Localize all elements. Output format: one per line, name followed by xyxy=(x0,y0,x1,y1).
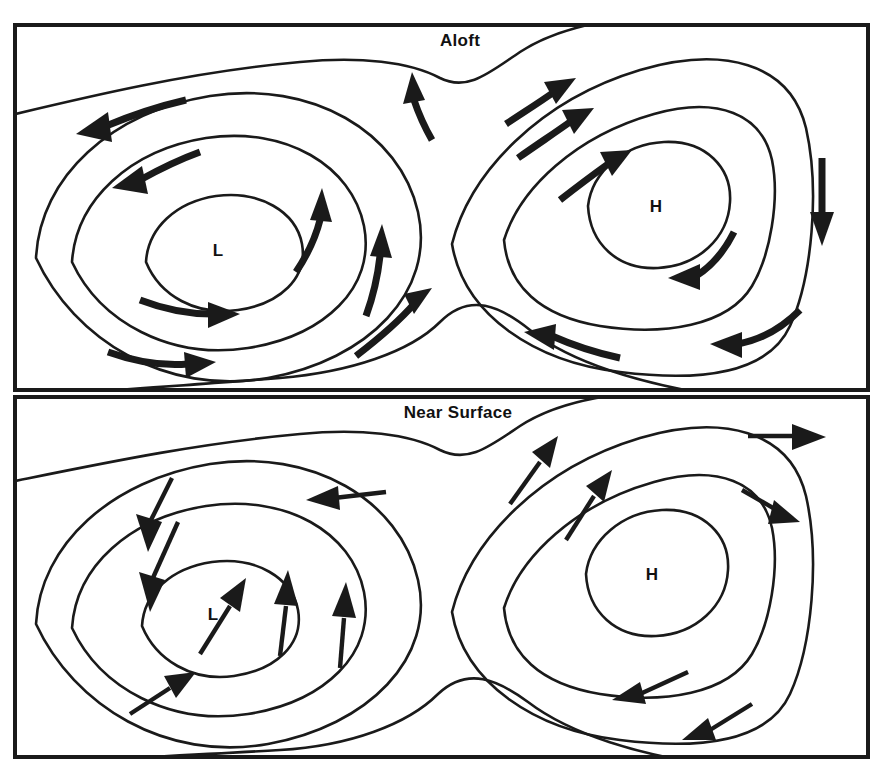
panel-near-surface: Near Surface L H xyxy=(0,390,868,766)
panel-title-near-surface: Near Surface xyxy=(404,403,513,422)
figure-root: Aloft L H xyxy=(0,0,884,773)
center-label-low-surface: L xyxy=(208,605,218,624)
panel-aloft: Aloft L H xyxy=(0,14,868,400)
center-label-low-aloft: L xyxy=(213,241,223,260)
panel-title-aloft: Aloft xyxy=(440,31,480,50)
center-label-high-surface: H xyxy=(646,565,658,584)
center-label-high-aloft: H xyxy=(650,197,662,216)
airflow-diagram: Aloft L H xyxy=(0,0,884,773)
